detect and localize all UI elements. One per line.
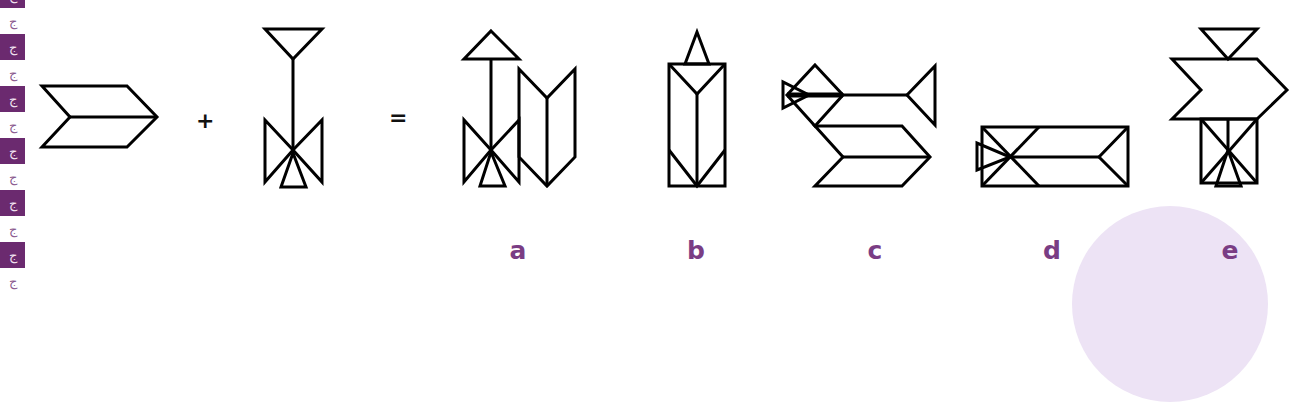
- option-e-label[interactable]: e: [1222, 236, 1239, 265]
- option-b-label[interactable]: b: [687, 236, 705, 265]
- plus-operator: +: [196, 108, 214, 133]
- option-e-figure[interactable]: [1172, 29, 1287, 186]
- option-b-figure[interactable]: [669, 32, 725, 186]
- option-c-label[interactable]: c: [868, 236, 883, 265]
- option-c-figure[interactable]: [783, 65, 935, 186]
- option-d-label[interactable]: d: [1043, 236, 1061, 265]
- operand-arrow-bowtie-figure: [265, 29, 322, 187]
- option-d-figure[interactable]: [977, 127, 1128, 186]
- operand-chevron-figure: [42, 86, 157, 147]
- option-a-label[interactable]: a: [510, 236, 527, 265]
- option-a-figure[interactable]: [464, 31, 575, 186]
- equals-operator: =: [389, 105, 407, 130]
